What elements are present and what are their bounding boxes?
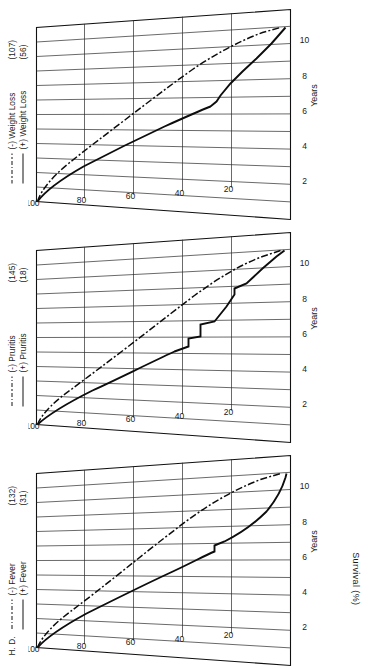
legend-count: (107)	[6, 39, 17, 59]
legend-row: H. D. (-) Fever (132)	[6, 445, 17, 655]
panel-pruritis: (-) Pruritis (145) (+) Pruritis (18)	[0, 223, 372, 446]
plot-area-weight-loss: 100 80 60 40 20 2 4 6 8 10	[28, 0, 328, 223]
svg-text:100: 100	[28, 643, 39, 653]
x-axis-title: Years	[308, 306, 318, 329]
svg-text:40: 40	[174, 410, 184, 420]
legend-count: (31)	[17, 490, 28, 505]
svg-text:40: 40	[174, 187, 184, 197]
svg-text:60: 60	[125, 413, 135, 423]
plot-grid	[36, 232, 290, 442]
solid-line-key-icon	[22, 599, 23, 629]
svg-text:100: 100	[28, 420, 39, 430]
survival-plot-weight-loss: 100 80 60 40 20 2 4 6 8 10	[28, 0, 328, 223]
legend-count: (132)	[6, 485, 17, 505]
panel-weight-loss: (-) Weight Loss (107) (+) Weight Loss (5…	[0, 0, 372, 223]
svg-text:10: 10	[299, 257, 309, 267]
legend-row: (-) Weight Loss (107)	[6, 0, 17, 209]
svg-text:8: 8	[302, 70, 307, 80]
legend-count: (56)	[17, 44, 28, 59]
panel-fever: H. D. (-) Fever (132) (+) Fever (31)	[0, 446, 372, 669]
svg-text:8: 8	[302, 293, 307, 303]
svg-text:4: 4	[302, 140, 307, 150]
figure-page-frame: H. D. (-) Fever (132) (+) Fever (31)	[0, 0, 372, 669]
svg-text:4: 4	[302, 363, 307, 373]
x-axis-ticks: 2 4 6 8 10	[299, 34, 309, 185]
dash-dot-line-key-icon	[11, 599, 12, 629]
svg-text:20: 20	[223, 406, 233, 416]
svg-text:6: 6	[302, 551, 307, 561]
legend-label: (+) Fever	[17, 561, 28, 595]
x-axis-ticks: 2 4 6 8 10	[299, 480, 309, 631]
survival-plot-fever: 100 80 60 40 20 2 4 6 8 10	[28, 446, 328, 669]
rotated-figure-page: H. D. (-) Fever (132) (+) Fever (31)	[0, 0, 372, 669]
dash-dot-line-key-icon	[11, 376, 12, 406]
legend-pruritis: (-) Pruritis (145) (+) Pruritis (18)	[6, 222, 28, 432]
svg-text:2: 2	[302, 621, 307, 631]
svg-text:4: 4	[302, 586, 307, 596]
legend-row: (+) Fever (31)	[17, 445, 28, 655]
legend-label: (+) Weight Loss	[17, 90, 28, 149]
solid-line-key-icon	[22, 153, 23, 183]
svg-text:60: 60	[125, 190, 135, 200]
svg-text:10: 10	[299, 34, 309, 44]
legend-row: (+) Weight Loss (56)	[17, 0, 28, 209]
plot-grid	[36, 455, 290, 665]
svg-text:20: 20	[223, 183, 233, 193]
svg-text:80: 80	[76, 194, 86, 204]
panel-row: H. D. (-) Fever (132) (+) Fever (31)	[0, 0, 372, 669]
plot-area-pruritis: 100 80 60 40 20 2 4 6 8 10	[28, 223, 328, 446]
svg-text:2: 2	[302, 398, 307, 408]
legend-weight-loss: (-) Weight Loss (107) (+) Weight Loss (5…	[6, 0, 28, 209]
x-axis-title: Years	[308, 529, 318, 552]
plot-grid	[36, 9, 290, 219]
legend-label: (+) Pruritis	[17, 333, 28, 372]
svg-text:6: 6	[302, 105, 307, 115]
y-axis-title: Survival (%)	[350, 552, 360, 605]
svg-text:2: 2	[302, 175, 307, 185]
solid-line-key-icon	[22, 376, 23, 406]
legend-count: (18)	[17, 267, 28, 282]
svg-text:8: 8	[302, 516, 307, 526]
legend-count: (145)	[6, 262, 17, 282]
svg-text:100: 100	[28, 197, 39, 207]
svg-text:6: 6	[302, 328, 307, 338]
x-axis-ticks: 2 4 6 8 10	[299, 257, 309, 408]
svg-text:40: 40	[174, 633, 184, 643]
legend-label: (-) Weight Loss	[6, 92, 17, 149]
legend-label: (-) Fever	[6, 563, 17, 595]
svg-text:80: 80	[76, 640, 86, 650]
svg-text:60: 60	[125, 636, 135, 646]
svg-text:80: 80	[76, 417, 86, 427]
group-label: H. D.	[6, 636, 17, 655]
svg-text:10: 10	[299, 480, 309, 490]
dash-dot-line-key-icon	[11, 153, 12, 183]
plot-area-fever: 100 80 60 40 20 2 4 6 8 10	[28, 446, 328, 669]
survival-plot-pruritis: 100 80 60 40 20 2 4 6 8 10	[28, 223, 328, 446]
svg-text:20: 20	[223, 629, 233, 639]
legend-label: (-) Pruritis	[6, 335, 17, 372]
legend-row: (+) Pruritis (18)	[17, 222, 28, 432]
x-axis-title: Years	[308, 83, 318, 106]
legend-row: (-) Pruritis (145)	[6, 222, 17, 432]
legend-fever: H. D. (-) Fever (132) (+) Fever (31)	[6, 445, 28, 655]
